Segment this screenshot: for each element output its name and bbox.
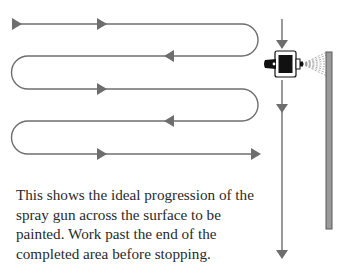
arrow-left-icon: [164, 50, 174, 62]
arrow-right-icon: [97, 148, 107, 160]
spray-gun: [264, 51, 303, 77]
arrow-right-icon: [251, 148, 261, 160]
arrow-right-icon: [97, 83, 107, 95]
caption-line: This shows the ideal progression of the: [16, 185, 266, 205]
spray-cone: [302, 52, 327, 76]
arrow-right-icon: [12, 18, 22, 30]
caption-line: painted. Work past the end of the: [16, 224, 266, 244]
painted-surface-panel: [326, 52, 332, 229]
serpentine-spray-path: [12, 24, 259, 154]
arrow-down-icon: [276, 40, 288, 49]
caption-line: spray gun across the surface to be: [16, 205, 266, 225]
arrow-left-icon: [164, 115, 174, 127]
caption-line: completed area before stopping.: [16, 244, 266, 264]
arrow-down-icon: [276, 250, 288, 259]
arrow-right-icon: [97, 18, 107, 30]
caption: This shows the ideal progression of the …: [16, 185, 266, 263]
arrow-down-icon: [276, 104, 288, 113]
